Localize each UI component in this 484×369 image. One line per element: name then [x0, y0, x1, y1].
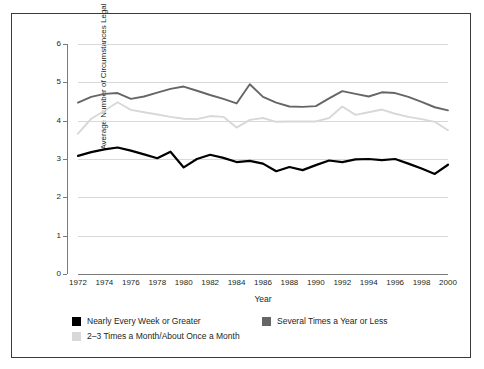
- y-tick-label: 2: [45, 193, 61, 201]
- y-tick-label: 4: [45, 117, 61, 125]
- legend-label: Nearly Every Week or Greater: [87, 316, 201, 326]
- page-root: Average Number of Circumstances Legal 01…: [0, 0, 484, 369]
- series-line: [78, 148, 448, 174]
- x-tick-labels: 1972197419761978198019821984198619881990…: [78, 278, 448, 292]
- y-tick-mark: [63, 236, 67, 237]
- y-tick-mark: [63, 82, 67, 83]
- x-tick-label: 2000: [433, 278, 463, 287]
- series-line: [78, 102, 448, 133]
- legend-swatch-icon: [72, 332, 81, 341]
- y-tick-mark: [63, 159, 67, 160]
- y-tick-mark: [63, 44, 67, 45]
- y-tick-label: 6: [45, 40, 61, 48]
- legend-label: Several Times a Year or Less: [277, 316, 388, 326]
- chart-legend: Nearly Every Week or GreaterSeveral Time…: [72, 316, 462, 350]
- series-line: [78, 84, 448, 110]
- chart-plot-area: [78, 44, 448, 274]
- y-tick-mark: [63, 121, 67, 122]
- y-tick-label: 3: [45, 155, 61, 163]
- x-axis-line: [78, 274, 448, 275]
- legend-swatch-icon: [72, 317, 81, 326]
- x-axis-title: Year: [78, 294, 448, 304]
- y-tick-mark: [63, 197, 67, 198]
- page-header: [0, 1, 484, 13]
- figure-frame: Average Number of Circumstances Legal 01…: [11, 13, 471, 358]
- y-tick-label: 5: [45, 78, 61, 86]
- legend-item[interactable]: Nearly Every Week or Greater: [72, 316, 201, 326]
- legend-label: 2–3 Times a Month/About Once a Month: [87, 331, 240, 341]
- y-tick-label: 0: [45, 270, 61, 278]
- chart-plot-wrapper: Average Number of Circumstances Legal 01…: [67, 32, 452, 290]
- y-axis-line: [67, 44, 68, 274]
- y-tick-mark: [63, 274, 67, 275]
- chart-series-svg: [78, 44, 448, 274]
- y-tick-label: 1: [45, 232, 61, 240]
- legend-item[interactable]: 2–3 Times a Month/About Once a Month: [72, 331, 240, 341]
- legend-item[interactable]: Several Times a Year or Less: [262, 316, 388, 326]
- legend-swatch-icon: [262, 317, 271, 326]
